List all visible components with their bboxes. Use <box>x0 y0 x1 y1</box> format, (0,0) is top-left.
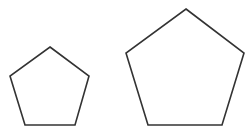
large-pentagon <box>126 9 244 125</box>
diagram-canvas <box>0 0 252 139</box>
small-pentagon <box>10 47 89 125</box>
